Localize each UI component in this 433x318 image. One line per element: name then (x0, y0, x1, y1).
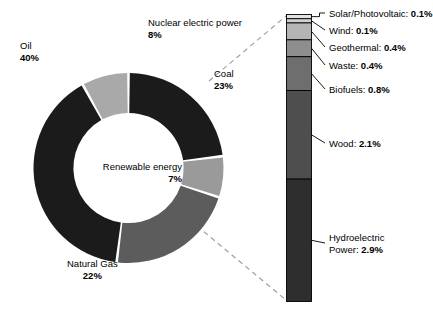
bar-label-wood-name: Wood: (329, 138, 356, 149)
bar-label-waste-value: 0.4% (361, 60, 383, 71)
callout-line-bottom (197, 226, 286, 300)
donut-slice-coal (129, 73, 222, 160)
leader-line-wood (312, 135, 326, 143)
bar-segment-wind (287, 19, 312, 23)
bar-label-solar-name: Solar/Photovoltaic: (329, 8, 408, 19)
bar-label-biofuels-name: Biofuels: (329, 84, 365, 95)
donut-label-nuclear-electric-power: Nuclear electric power 8% (148, 17, 242, 40)
bar-label-hydroelectric-power: Hydroelectric Power: 2.9% (329, 232, 384, 255)
bar-segment-solar-photovoltaic (287, 15, 312, 19)
bar-label-wind-value: 0.1% (356, 25, 378, 36)
bar-segment-biofuels (287, 57, 312, 91)
bar-label-geothermal-value: 0.4% (384, 42, 406, 53)
bar-segment-geothermal (287, 23, 312, 40)
callout-lines (197, 16, 286, 300)
donut-label-renewable-value: 7% (96, 173, 182, 185)
bar-label-hydro-name2: Power: (329, 244, 359, 255)
donut-label-coal-value: 23% (214, 80, 234, 92)
donut-label-coal: Coal 23% (214, 68, 234, 91)
bar-label-hydro-name: Hydroelectric (329, 232, 384, 243)
leader-line-geothermal (312, 31, 326, 47)
leader-line-waste (312, 48, 326, 65)
leader-line-biofuels (312, 74, 326, 89)
bar-label-solar-photovoltaic: Solar/Photovoltaic: 0.1% (329, 8, 433, 20)
bar-label-waste: Waste: 0.4% (329, 60, 383, 72)
renewable-breakout-bar (287, 15, 312, 302)
donut-label-renewable-energy: Renewable energy 7% (96, 161, 182, 184)
bar-label-wood: Wood: 2.1% (329, 138, 381, 150)
donut-label-nuclear-name: Nuclear electric power (148, 17, 242, 28)
donut-label-oil-name: Oil (20, 40, 32, 51)
leader-line-solar-photovoltaic (312, 13, 326, 17)
donut-label-natural-gas-value: 22% (67, 270, 118, 282)
bar-label-biofuels-value: 0.8% (368, 84, 390, 95)
donut-label-natural-gas-name: Natural Gas (67, 258, 118, 269)
bar-label-hydro-value: 2.9% (361, 244, 383, 255)
bar-segment-wood (287, 90, 312, 179)
donut-label-nuclear-value: 8% (148, 29, 242, 41)
bar-label-waste-name: Waste: (329, 60, 358, 71)
bar-label-solar-value: 0.1% (411, 8, 433, 19)
donut-label-oil-value: 40% (20, 52, 39, 64)
bar-segment-waste (287, 40, 312, 57)
donut-label-oil: Oil 40% (20, 40, 39, 63)
bar-segment-hydroelectric-power (287, 179, 312, 301)
donut-label-natural-gas: Natural Gas 22% (67, 258, 118, 281)
bar-leader-lines (312, 13, 326, 243)
donut-slice-natural-gas (118, 186, 219, 263)
leader-line-wind (312, 21, 326, 30)
bar-label-wood-value: 2.1% (359, 138, 381, 149)
donut-label-renewable-name: Renewable energy (103, 161, 182, 172)
leader-line-hydroelectric-power (312, 240, 326, 243)
bar-label-geothermal: Geothermal: 0.4% (329, 42, 406, 54)
bar-label-geothermal-name: Geothermal: (329, 42, 381, 53)
bar-label-wind-name: Wind: (329, 25, 353, 36)
donut-label-coal-name: Coal (214, 68, 234, 79)
bar-label-wind: Wind: 0.1% (329, 25, 378, 37)
bar-label-biofuels: Biofuels: 0.8% (329, 84, 390, 96)
